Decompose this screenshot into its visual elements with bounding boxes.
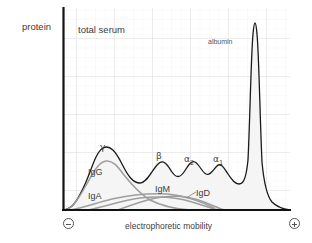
serum-electrophoresis-figure: protein total serum albumin γ β α2 α1 Ig…	[0, 0, 312, 243]
albumin-label: albumin	[208, 38, 233, 45]
alpha1-region-label: α1	[213, 155, 223, 166]
plot-canvas	[0, 0, 312, 243]
iga-label: IgA	[88, 192, 102, 201]
y-axis-label: protein	[22, 22, 51, 32]
alpha2-subscript: 2	[190, 159, 194, 167]
alpha2-region-label: α2	[184, 155, 194, 166]
igm-label: IgM	[155, 185, 170, 194]
igd-label: IgD	[196, 189, 210, 198]
minus-circle-icon	[63, 218, 74, 229]
total-serum-label: total serum	[78, 25, 125, 35]
gamma-region-label: γ	[100, 143, 105, 152]
beta-region-label: β	[156, 152, 162, 161]
igg-label: IgG	[88, 168, 103, 177]
x-axis-label: electrophoretic mobility	[125, 222, 212, 231]
plus-circle-icon	[289, 218, 300, 229]
alpha1-subscript: 1	[219, 159, 223, 167]
